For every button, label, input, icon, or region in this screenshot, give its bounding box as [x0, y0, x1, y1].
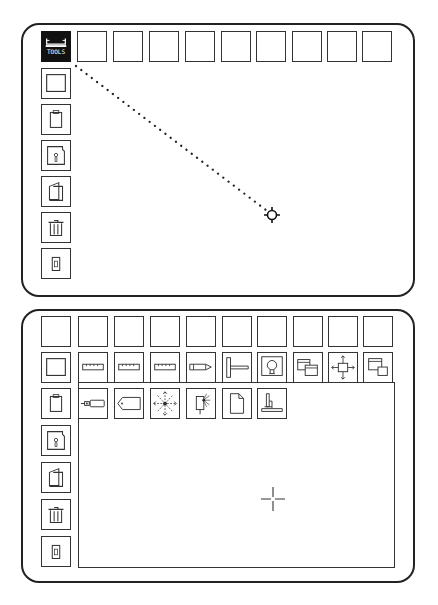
tool-move-resize[interactable]	[328, 352, 358, 383]
folder-icon	[42, 463, 70, 492]
sidebar-clipboard-button[interactable]	[41, 388, 71, 419]
floppy-disk-icon	[42, 426, 70, 455]
tool-ruler-3[interactable]	[150, 352, 180, 383]
tool-ruler-1[interactable]	[78, 352, 108, 383]
drag-path	[0, 0, 438, 300]
ruler-icon	[151, 353, 179, 382]
top-bar-slot-7[interactable]	[257, 316, 287, 347]
crosshair-cursor-icon	[261, 487, 285, 511]
tool-pencil[interactable]	[186, 352, 216, 383]
document-icon	[223, 389, 251, 418]
sidebar-window-button[interactable]	[41, 352, 71, 383]
tool-overlap-windows[interactable]	[293, 352, 323, 383]
stand-icon	[258, 389, 286, 418]
top-bar-slot-6[interactable]	[222, 316, 252, 347]
top-bar-slot-8[interactable]	[293, 316, 323, 347]
top-bar-slot-10[interactable]	[363, 316, 393, 347]
plug-icon	[79, 389, 107, 418]
top-bar-slot-9[interactable]	[328, 316, 358, 347]
door-icon	[42, 537, 70, 566]
stacked-windows-icon	[364, 353, 392, 382]
tag-icon	[115, 389, 143, 418]
target-cursor-icon	[262, 205, 282, 225]
top-bar-slot-2[interactable]	[78, 316, 108, 347]
sidebar-disk-button[interactable]	[41, 425, 71, 456]
move-resize-icon	[329, 353, 357, 382]
sidebar-exit-button[interactable]	[41, 536, 71, 567]
tool-t-square[interactable]	[222, 352, 252, 383]
ruler-icon	[79, 353, 107, 382]
trash-icon	[42, 500, 70, 529]
window-icon	[42, 353, 70, 382]
t-square-icon	[223, 353, 251, 382]
top-bar-slot-3[interactable]	[114, 316, 144, 347]
pencil-icon	[187, 353, 215, 382]
ruler-icon	[115, 353, 143, 382]
tool-ruler-2[interactable]	[114, 352, 144, 383]
top-bar-slot-5[interactable]	[186, 316, 216, 347]
overlap-windows-icon	[294, 353, 322, 382]
light-switch-icon	[187, 389, 215, 418]
lamp-icon	[258, 353, 286, 382]
tool-plug[interactable]	[78, 388, 108, 419]
sidebar-trash-button[interactable]	[41, 499, 71, 530]
clipboard-icon	[42, 389, 70, 418]
top-bar-slot-1[interactable]	[41, 316, 71, 347]
tool-lamp[interactable]	[257, 352, 287, 383]
sidebar-folder-button[interactable]	[41, 462, 71, 493]
tool-document[interactable]	[222, 388, 252, 419]
tool-expand[interactable]	[150, 388, 180, 419]
tool-stacked-windows[interactable]	[363, 352, 393, 383]
top-bar-slot-4[interactable]	[150, 316, 180, 347]
tool-light-switch[interactable]	[186, 388, 216, 419]
tool-tag[interactable]	[114, 388, 144, 419]
expand-arrows-icon	[151, 389, 179, 418]
tool-stand[interactable]	[257, 388, 287, 419]
